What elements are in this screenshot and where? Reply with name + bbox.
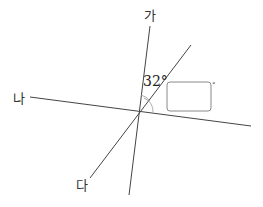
degree-unit: ° — [212, 81, 216, 89]
angle-diagram: 가 나 다 32° ° — [0, 0, 263, 207]
answer-box[interactable] — [167, 82, 211, 111]
label-da: 다 — [76, 178, 88, 193]
label-ga: 가 — [144, 8, 156, 23]
label-na: 나 — [13, 91, 25, 106]
angle-label: 32° — [143, 73, 168, 89]
